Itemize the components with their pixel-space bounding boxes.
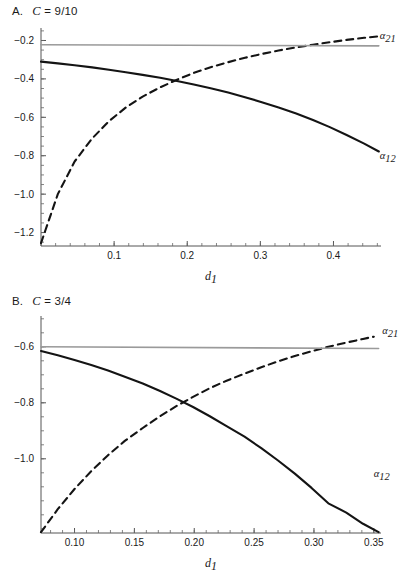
y-tick-label: −0.6 xyxy=(14,341,34,352)
series-alpha_12 xyxy=(41,62,379,152)
x-tick-label: 0.30 xyxy=(304,537,324,548)
y-tick-label: −1.0 xyxy=(14,189,34,200)
curve-label-subscript: 21 xyxy=(385,33,396,44)
x-tick-label: 0.20 xyxy=(185,537,205,548)
panel-b-plot: −0.6−0.8−1.00.100.150.200.250.300.35d1α2… xyxy=(0,290,419,577)
curve-label-subscript: 12 xyxy=(379,471,390,482)
x-tick-label: 0.35 xyxy=(364,537,384,548)
y-tick-label: −1.2 xyxy=(14,227,34,238)
series-reference_level xyxy=(41,45,379,46)
x-tick-label: 0.4 xyxy=(327,250,341,261)
x-tick-label: 0.10 xyxy=(65,537,85,548)
x-axis-label-subscript: 1 xyxy=(211,559,217,573)
series-alpha_12 xyxy=(41,351,379,532)
curve-label-subscript: 21 xyxy=(388,328,399,339)
x-tick-label: 0.15 xyxy=(125,537,145,548)
curve-label-a12: α12 xyxy=(374,468,391,482)
x-tick-label: 0.3 xyxy=(253,250,267,261)
y-tick-label: −1.0 xyxy=(14,453,34,464)
x-tick-label: 0.1 xyxy=(107,250,121,261)
y-tick-label: −0.6 xyxy=(14,112,34,123)
x-tick-label: 0.25 xyxy=(244,537,264,548)
x-axis-label: d1 xyxy=(205,269,217,286)
curve-label-subscript: 12 xyxy=(385,153,396,164)
series-alpha_21 xyxy=(41,337,374,532)
curve-label-a12: α12 xyxy=(380,150,397,164)
x-tick-label: 0.2 xyxy=(180,250,194,261)
y-tick-label: −0.8 xyxy=(14,150,34,161)
y-tick-label: −0.8 xyxy=(14,397,34,408)
figure-container: A.C = 9/10 −0.2−0.4−0.6−0.8−1.0−1.20.10.… xyxy=(0,0,419,577)
panel-a-plot: −0.2−0.4−0.6−0.8−1.0−1.20.10.20.30.4d1α2… xyxy=(0,0,419,290)
panel-b: B.C = 3/4 −0.6−0.8−1.00.100.150.200.250.… xyxy=(0,290,419,577)
curve-label-a21: α21 xyxy=(382,325,398,339)
curve-label-a21: α21 xyxy=(380,30,396,44)
x-axis-label-subscript: 1 xyxy=(211,272,217,286)
x-axis-label: d1 xyxy=(205,556,217,573)
y-tick-label: −0.2 xyxy=(14,35,34,46)
y-tick-label: −0.4 xyxy=(14,73,34,84)
panel-a: A.C = 9/10 −0.2−0.4−0.6−0.8−1.0−1.20.10.… xyxy=(0,0,419,290)
